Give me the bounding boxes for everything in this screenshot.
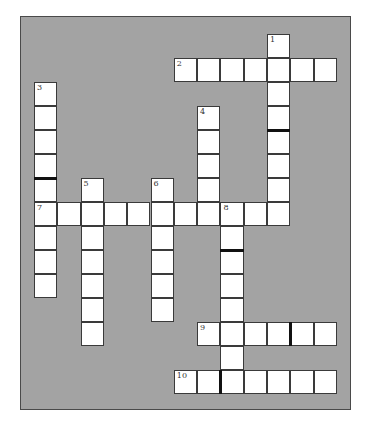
crossword-cell[interactable] <box>290 370 313 394</box>
word-separator-bar <box>34 177 57 180</box>
crossword-cell[interactable] <box>197 178 220 202</box>
crossword-cell[interactable]: 5 <box>81 178 104 202</box>
crossword-cell[interactable] <box>151 298 174 322</box>
crossword-cell[interactable] <box>197 58 220 82</box>
crossword-cell[interactable] <box>197 202 220 226</box>
crossword-cell[interactable]: 3 <box>34 82 57 106</box>
crossword-cell[interactable] <box>220 58 243 82</box>
crossword-cell[interactable] <box>267 370 290 394</box>
word-separator-bar <box>267 129 290 132</box>
crossword-cell[interactable]: 6 <box>151 178 174 202</box>
crossword-cell[interactable] <box>81 298 104 322</box>
crossword-cell[interactable] <box>244 202 267 226</box>
crossword-cell[interactable] <box>314 322 337 346</box>
crossword-cell[interactable]: 9 <box>197 322 220 346</box>
clue-number: 6 <box>154 180 159 188</box>
crossword-cell[interactable] <box>104 202 127 226</box>
crossword-cell[interactable] <box>314 58 337 82</box>
crossword-cell[interactable] <box>267 130 290 154</box>
crossword-cell[interactable]: 7 <box>34 202 57 226</box>
crossword-cell[interactable] <box>34 130 57 154</box>
crossword-cell[interactable] <box>267 82 290 106</box>
crossword-cell[interactable] <box>127 202 150 226</box>
crossword-cell[interactable] <box>267 202 290 226</box>
crossword-cell[interactable] <box>220 346 243 370</box>
clue-number: 5 <box>84 180 89 188</box>
crossword-cell[interactable] <box>81 274 104 298</box>
crossword-cell[interactable] <box>290 58 313 82</box>
crossword-board: 12374568910 <box>20 16 351 410</box>
crossword-cell[interactable] <box>267 322 290 346</box>
crossword-cell[interactable] <box>81 322 104 346</box>
crossword-cell[interactable] <box>34 154 57 178</box>
crossword-cell[interactable]: 8 <box>220 202 243 226</box>
crossword-cell[interactable] <box>34 178 57 202</box>
crossword-cell[interactable] <box>151 250 174 274</box>
crossword-cell[interactable] <box>34 106 57 130</box>
clue-number: 7 <box>37 204 42 212</box>
crossword-cell[interactable] <box>267 178 290 202</box>
crossword-cell[interactable] <box>220 250 243 274</box>
crossword-cell[interactable] <box>220 274 243 298</box>
crossword-cell[interactable]: 2 <box>174 58 197 82</box>
crossword-cell[interactable] <box>34 274 57 298</box>
crossword-cell[interactable]: 1 <box>267 34 290 58</box>
crossword-cell[interactable] <box>244 322 267 346</box>
clue-number: 8 <box>223 204 228 212</box>
crossword-cell[interactable] <box>220 298 243 322</box>
crossword-cell[interactable] <box>267 58 290 82</box>
crossword-cell[interactable] <box>151 226 174 250</box>
crossword-cell[interactable] <box>267 106 290 130</box>
clue-number: 4 <box>200 108 205 116</box>
crossword-cell[interactable] <box>197 154 220 178</box>
crossword-cell[interactable] <box>220 370 243 394</box>
crossword-cell[interactable] <box>151 274 174 298</box>
crossword-cell[interactable] <box>290 322 313 346</box>
crossword-cell[interactable] <box>151 202 174 226</box>
crossword-cell[interactable] <box>34 250 57 274</box>
crossword-cell[interactable] <box>314 370 337 394</box>
clue-number: 10 <box>177 372 187 380</box>
crossword-cell[interactable] <box>244 58 267 82</box>
clue-number: 3 <box>37 84 42 92</box>
crossword-cell[interactable] <box>81 250 104 274</box>
word-separator-bar <box>219 370 222 394</box>
crossword-cell[interactable] <box>220 322 243 346</box>
crossword-cell[interactable] <box>174 202 197 226</box>
word-separator-bar <box>289 322 292 346</box>
crossword-cell[interactable] <box>81 226 104 250</box>
clue-number: 2 <box>177 60 182 68</box>
clue-number: 1 <box>270 36 275 44</box>
crossword-cell[interactable]: 10 <box>174 370 197 394</box>
crossword-cell[interactable] <box>34 226 57 250</box>
crossword-cell[interactable] <box>197 130 220 154</box>
word-separator-bar <box>220 249 243 252</box>
crossword-cell[interactable]: 4 <box>197 106 220 130</box>
crossword-cell[interactable] <box>220 226 243 250</box>
crossword-cell[interactable] <box>197 370 220 394</box>
clue-number: 9 <box>200 324 205 332</box>
crossword-cell[interactable] <box>81 202 104 226</box>
crossword-cell[interactable] <box>57 202 80 226</box>
crossword-cell[interactable] <box>267 154 290 178</box>
crossword-cell[interactable] <box>244 370 267 394</box>
